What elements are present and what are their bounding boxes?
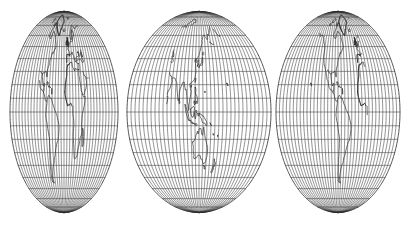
- world-map-canvas: [0, 0, 417, 227]
- map-lobe-asia-pacific: [127, 12, 271, 213]
- map-lobe-africa-europe: [10, 12, 118, 213]
- world-map-figure: [0, 0, 417, 227]
- map-lobe-americas: [276, 12, 400, 213]
